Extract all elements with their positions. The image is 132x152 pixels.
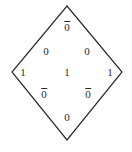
diamond-lattice-diagram: 0 0 0 1 1 1 0 0 0 — [0, 0, 132, 152]
node-label-top: 0 — [64, 21, 70, 33]
node-label-row3-left: 1 — [20, 67, 26, 78]
node-label-bottom: 0 — [64, 112, 70, 123]
node-label-row2-right: 0 — [84, 46, 90, 57]
node-label-bottom-text: 0 — [64, 111, 70, 123]
node-label-row2-left: 0 — [43, 46, 49, 57]
node-label-row2-right-text: 0 — [84, 45, 90, 57]
node-label-row4-right-text: 0 — [85, 88, 91, 100]
node-label-row3-right-text: 1 — [107, 66, 113, 78]
node-label-row4-left: 0 — [41, 88, 47, 100]
node-label-row3-left-text: 1 — [20, 66, 26, 78]
node-label-row4-right: 0 — [85, 88, 91, 100]
node-label-row2-left-text: 0 — [43, 45, 49, 57]
node-label-row4-left-text: 0 — [41, 88, 47, 100]
node-label-row3-mid-text: 1 — [64, 66, 70, 78]
node-label-row3-mid: 1 — [64, 67, 70, 78]
node-label-top-text: 0 — [64, 21, 70, 33]
node-label-row3-right: 1 — [107, 67, 113, 78]
